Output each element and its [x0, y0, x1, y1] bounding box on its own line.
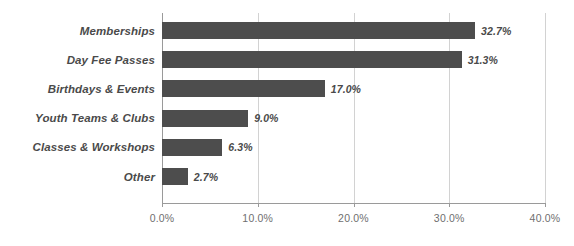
- bar-value-label: 31.3%: [468, 54, 498, 66]
- x-axis-tick-label: 10.0%: [242, 212, 273, 224]
- category-label-wrap: Memberships: [0, 22, 155, 39]
- bar-row: Other2.7%: [0, 168, 574, 185]
- category-label-wrap: Other: [0, 168, 155, 185]
- bar-row: Birthdays & Events17.0%: [0, 80, 574, 97]
- x-axis-tick: [162, 203, 163, 207]
- bar-row: Youth Teams & Clubs9.0%: [0, 110, 574, 127]
- x-axis-tick-label: 0.0%: [150, 212, 175, 224]
- category-label: Youth Teams & Clubs: [5, 112, 155, 124]
- x-axis-tick-label: 30.0%: [434, 212, 465, 224]
- bar-value-label: 32.7%: [481, 25, 511, 37]
- category-label-wrap: Birthdays & Events: [0, 80, 155, 97]
- bar-value-label: 9.0%: [254, 112, 278, 124]
- bar-row: Classes & Workshops6.3%: [0, 139, 574, 156]
- category-label: Birthdays & Events: [5, 83, 155, 95]
- x-axis-tick: [258, 203, 259, 207]
- x-axis-tick-label: 20.0%: [338, 212, 369, 224]
- bar-row: Day Fee Passes31.3%: [0, 51, 574, 68]
- bar-row: Memberships32.7%: [0, 22, 574, 39]
- category-label-wrap: Classes & Workshops: [0, 139, 155, 156]
- category-label-wrap: Day Fee Passes: [0, 51, 155, 68]
- bar: [162, 139, 222, 156]
- category-label: Other: [5, 171, 155, 183]
- x-axis-tick-label: 40.0%: [530, 212, 561, 224]
- category-label: Day Fee Passes: [5, 54, 155, 66]
- bar-value-label: 6.3%: [228, 141, 252, 153]
- x-axis-tick: [449, 203, 450, 207]
- bar: [162, 22, 475, 39]
- bar: [162, 168, 188, 185]
- category-label: Classes & Workshops: [5, 141, 155, 153]
- category-label-wrap: Youth Teams & Clubs: [0, 110, 155, 127]
- bar-value-label: 2.7%: [194, 171, 218, 183]
- bar: [162, 110, 248, 127]
- bar-value-label: 17.0%: [331, 83, 361, 95]
- category-label: Memberships: [5, 25, 155, 37]
- x-axis-tick: [354, 203, 355, 207]
- bar: [162, 51, 462, 68]
- chart-title-cropped: [150, 0, 410, 2]
- bar: [162, 80, 325, 97]
- bar-chart: 0.0%10.0%20.0%30.0%40.0%Memberships32.7%…: [0, 0, 574, 246]
- x-axis-tick: [545, 203, 546, 207]
